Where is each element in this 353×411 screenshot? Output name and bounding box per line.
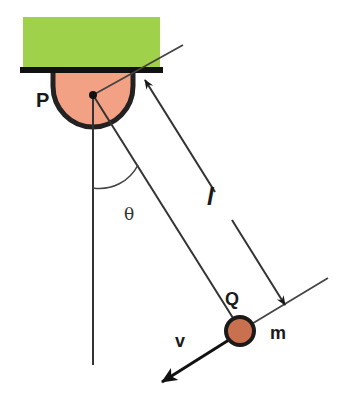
label-length-l: l — [207, 183, 215, 210]
pendulum-diagram: P θ l Q m v — [0, 0, 353, 411]
label-mass-m: m — [270, 323, 286, 343]
label-velocity-v: v — [175, 331, 185, 351]
support-block — [23, 17, 160, 67]
length-dimension-line-lower — [232, 220, 285, 305]
lower-perpendicular-line — [250, 278, 328, 325]
angle-arc — [93, 165, 138, 189]
length-dimension-line — [145, 80, 215, 192]
label-angle-theta: θ — [124, 204, 134, 224]
pivot-point — [89, 91, 97, 99]
bob-mass — [226, 317, 254, 345]
velocity-arrow — [162, 338, 232, 382]
label-bob-q: Q — [225, 289, 239, 309]
label-pivot-p: P — [36, 89, 49, 111]
